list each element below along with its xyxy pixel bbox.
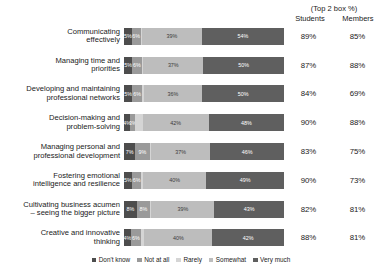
students-value: 89% — [284, 32, 333, 41]
top2box-values: 89%85% — [284, 32, 382, 41]
bar-segment — [135, 114, 143, 131]
stacked-bar-chart: (Top 2 box %) Students Members Communica… — [0, 0, 382, 273]
bar-segment: 39% — [142, 28, 201, 45]
bar-segment: 50% — [203, 57, 284, 74]
members-value: 81% — [333, 205, 382, 214]
top2box-values: 87%88% — [284, 61, 382, 70]
category-label: Communicatingeffectively — [0, 28, 124, 45]
legend-item: Don't know — [92, 256, 130, 264]
chart-row: Creative and innovativethinking4%6%40%42… — [0, 224, 382, 253]
top2box-values: 90%73% — [284, 176, 382, 185]
students-value: 88% — [284, 233, 333, 242]
legend-swatch-icon — [92, 258, 97, 263]
students-value: 84% — [284, 89, 333, 98]
bar-segment: 6% — [131, 229, 141, 246]
bar-segment: 5% — [124, 57, 132, 74]
legend-item: Rarely — [176, 256, 201, 264]
stacked-bar: 5%6%37%50% — [124, 57, 284, 74]
bar-segment: 40% — [143, 172, 206, 189]
students-value: 83% — [284, 147, 333, 156]
students-value: 87% — [284, 61, 333, 70]
legend-label: Rarely — [183, 256, 201, 264]
bar-segment: 8% — [124, 201, 137, 218]
members-value: 69% — [333, 89, 382, 98]
category-label: Cultivating business acumen– seeing the … — [0, 201, 124, 218]
bar-segment: 5% — [124, 85, 132, 102]
bar-segment: 37% — [143, 57, 203, 74]
stacked-bar: 5%6%40%49% — [124, 172, 284, 189]
legend-label: Not at all — [144, 256, 169, 264]
chart-row: Managing time andpriorities5%6%37%50%87%… — [0, 51, 382, 80]
stacked-bar: 7%9%37%46% — [124, 143, 284, 160]
top2box-values: 88%81% — [284, 233, 382, 242]
bar-segment: 6% — [132, 85, 142, 102]
bar-segment: 54% — [202, 28, 284, 45]
category-label: Decision-making andproblem-solving — [0, 114, 124, 131]
chart-legend: Don't knowNot at allRarelySomewhatVery m… — [0, 256, 382, 264]
stacked-bar: 5%6%39%54% — [124, 28, 284, 45]
bar-segment: 6% — [132, 172, 142, 189]
bar-segment: 8% — [137, 201, 150, 218]
members-value: 85% — [333, 32, 382, 41]
category-label: Managing time andpriorities — [0, 57, 124, 74]
chart-row: Developing and maintainingprofessional n… — [0, 80, 382, 109]
stacked-bar: 4%3%42%48% — [124, 114, 284, 131]
legend-swatch-icon — [209, 258, 214, 263]
bar-segment: 50% — [202, 85, 284, 102]
members-value: 75% — [333, 147, 382, 156]
legend-swatch-icon — [137, 258, 142, 263]
top2box-values: 90%88% — [284, 118, 382, 127]
chart-rows: Communicatingeffectively5%6%39%54%89%85%… — [0, 22, 382, 252]
bar-segment: 40% — [144, 229, 212, 246]
legend-item: Somewhat — [209, 256, 246, 264]
members-value: 73% — [333, 176, 382, 185]
bar-segment: 42% — [212, 229, 283, 246]
members-value: 88% — [333, 118, 382, 127]
students-value: 90% — [284, 176, 333, 185]
stacked-bar: 4%6%40%42% — [124, 229, 284, 246]
top2box-values: 82%81% — [284, 205, 382, 214]
chart-row: Communicatingeffectively5%6%39%54%89%85% — [0, 22, 382, 51]
bar-segment: 4% — [124, 229, 131, 246]
legend-label: Don't know — [99, 256, 130, 264]
students-value: 90% — [284, 118, 333, 127]
bar-segment: 42% — [143, 114, 209, 131]
category-label: Managing personal andprofessional develo… — [0, 143, 124, 160]
legend-label: Very much — [260, 256, 290, 264]
chart-row: Decision-making andproblem-solving4%3%42… — [0, 108, 382, 137]
top2box-values: 84%69% — [284, 89, 382, 98]
bar-segment: 5% — [124, 172, 132, 189]
legend-swatch-icon — [253, 258, 258, 263]
bar-segment: 6% — [132, 57, 142, 74]
top2box-values: 83%75% — [284, 147, 382, 156]
legend-item: Very much — [253, 256, 290, 264]
category-label: Developing and maintainingprofessional n… — [0, 85, 124, 102]
bar-segment: 9% — [135, 143, 149, 160]
top2box-header: (Top 2 box %) Students Members — [286, 4, 382, 23]
chart-row: Fostering emotionalintelligence and resi… — [0, 166, 382, 195]
stacked-bar: 5%6%36%50% — [124, 85, 284, 102]
members-value: 88% — [333, 61, 382, 70]
members-value: 81% — [333, 233, 382, 242]
bar-segment: 43% — [214, 201, 283, 218]
bar-segment: 48% — [209, 114, 284, 131]
bar-segment: 5% — [124, 28, 132, 45]
bar-segment: 49% — [206, 172, 284, 189]
students-value: 82% — [284, 205, 333, 214]
category-label: Creative and innovativethinking — [0, 229, 124, 246]
legend-swatch-icon — [176, 258, 181, 263]
legend-label: Somewhat — [216, 256, 246, 264]
stacked-bar: 8%8%39%43% — [124, 201, 284, 218]
bar-segment: 46% — [210, 143, 284, 160]
chart-row: Cultivating business acumen– seeing the … — [0, 195, 382, 224]
category-label: Fostering emotionalintelligence and resi… — [0, 172, 124, 189]
chart-row: Managing personal andprofessional develo… — [0, 137, 382, 166]
bar-segment: 6% — [132, 28, 141, 45]
legend-item: Not at all — [137, 256, 169, 264]
top2box-title: (Top 2 box %) — [286, 4, 382, 13]
bar-segment: 36% — [144, 85, 203, 102]
bar-segment: 37% — [151, 143, 210, 160]
bar-segment: 7% — [124, 143, 135, 160]
bar-segment: 39% — [151, 201, 214, 218]
